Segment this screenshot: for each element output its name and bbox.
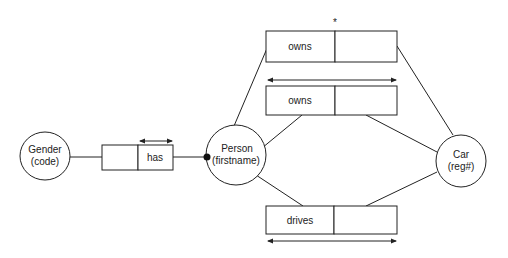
entity-car-ref: (reg#) [448,161,475,172]
fact-owns-mid[interactable]: owns [266,80,397,115]
fact-has-label: has [147,152,163,163]
role-box-owns-top-2[interactable] [335,31,397,62]
connectors [70,46,453,206]
connector-person-owns-top [234,46,268,126]
entity-person-name: Person [221,143,253,154]
connector-owns-top-car [397,46,453,135]
connector-owns-mid-car [366,115,437,152]
fact-owns-top-label: owns [288,41,311,52]
fact-drives[interactable]: drives [266,206,397,241]
connector-drives-car [366,172,437,206]
entity-car-name: Car [453,149,470,160]
entity-gender-name: Gender [28,144,62,155]
fact-drives-label: drives [287,215,314,226]
role-box-drives-2[interactable] [334,206,397,234]
role-box-owns-mid-2[interactable] [335,86,397,115]
role-box-has-1[interactable] [102,145,138,170]
orm-diagram: Gender (code) has Person (firstname) * o… [0,0,508,258]
fact-owns-top-marker: * [333,17,337,28]
fact-owns-mid-label: owns [288,95,311,106]
mandatory-role-dot [204,154,211,161]
entity-gender-ref: (code) [31,156,59,167]
entity-person[interactable]: Person (firstname) [206,125,266,185]
entity-gender[interactable]: Gender (code) [20,132,70,180]
connector-person-drives [256,175,303,206]
entity-person-ref: (firstname) [212,155,260,166]
fact-has[interactable]: has [102,141,173,170]
entity-car[interactable]: Car (reg#) [436,135,486,187]
fact-owns-top[interactable]: * owns [266,17,397,62]
connector-person-owns-mid [262,115,302,148]
